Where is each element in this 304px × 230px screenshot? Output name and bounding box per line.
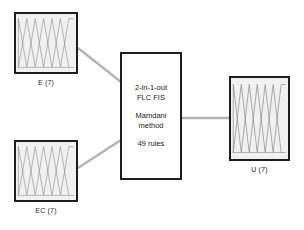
output-panel-u[interactable]	[229, 76, 290, 161]
output-panel-u-label: U (7)	[229, 165, 290, 174]
input-panel-e-label: E (7)	[14, 78, 78, 87]
diagram-canvas: E (7) EC (7) 2-in-1-out FLC FIS Mamdani …	[0, 0, 304, 230]
link-ec-to-fis	[78, 140, 121, 168]
membership-functions-plot-ec	[16, 142, 76, 200]
fis-rule-count-line1: 49 rules	[138, 139, 165, 149]
membership-functions-plot-u	[231, 78, 288, 159]
fis-rule-count: 49 rules	[138, 139, 165, 149]
fis-method-line1: Mamdani	[136, 111, 167, 121]
membership-functions-plot-e	[16, 14, 76, 72]
input-panel-e[interactable]	[14, 12, 78, 74]
input-panel-ec[interactable]	[14, 140, 78, 202]
fis-type: 2-in-1-out FLC FIS	[135, 83, 167, 103]
fis-type-line2: FLC FIS	[135, 93, 167, 103]
link-e-to-fis	[78, 48, 121, 82]
fis-type-line1: 2-in-1-out	[135, 83, 167, 93]
fis-block[interactable]: 2-in-1-out FLC FIS Mamdani method 49 rul…	[120, 52, 182, 180]
input-panel-ec-label: EC (7)	[14, 206, 78, 215]
fis-method-line2: method	[136, 121, 167, 131]
fis-method: Mamdani method	[136, 111, 167, 131]
